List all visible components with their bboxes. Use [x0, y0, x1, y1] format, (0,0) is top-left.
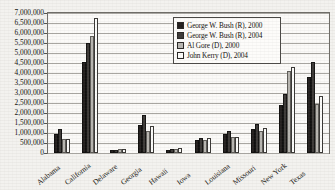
y-axis-tick-label: 6,000,000 — [0, 29, 44, 37]
y-axis-tickmark — [44, 63, 47, 64]
legend-item-label: George W. Bush (R), 2000 — [187, 21, 262, 30]
y-axis-tick-label: 6,500,000 — [0, 19, 44, 27]
bar-chart: 7,000,0006,500,0006,000,0005,500,0005,00… — [0, 0, 335, 190]
x-axis-category-label: Texas — [287, 169, 306, 187]
y-axis-tickmark — [44, 13, 47, 14]
y-axis-tick-label: 4,500,000 — [0, 59, 44, 67]
bar-group — [48, 13, 76, 153]
y-axis-tickmark — [44, 23, 47, 24]
bar — [178, 148, 182, 153]
y-axis-tickmark — [44, 93, 47, 94]
y-axis-tick-label: 5,500,000 — [0, 39, 44, 47]
y-axis-tickmark — [44, 83, 47, 84]
y-axis-tick-label: 2,000,000 — [0, 109, 44, 117]
x-axis-category-label: New York — [259, 161, 289, 187]
bar — [263, 128, 267, 153]
x-axis-category-label: California — [63, 161, 92, 187]
legend-item: John Kerry (D), 2004 — [177, 50, 277, 60]
y-axis-tick-label: 1,500,000 — [0, 119, 44, 127]
legend-swatch-icon — [177, 32, 184, 39]
x-axis-category-label: Alabama — [34, 163, 61, 187]
x-axis-category-label: Missouri — [231, 163, 258, 186]
legend-item: Al Gore (D), 2000 — [177, 40, 277, 50]
legend-item: George W. Bush (R), 2004 — [177, 30, 277, 40]
bar-group — [76, 13, 104, 153]
legend-item: George W. Bush (R), 2000 — [177, 20, 277, 30]
x-axis-category-label: Delaware — [91, 162, 119, 187]
bar — [319, 96, 323, 153]
bar — [291, 67, 295, 153]
legend-item-label: John Kerry (D), 2004 — [187, 51, 248, 60]
legend-swatch-icon — [177, 22, 184, 29]
bar — [94, 18, 98, 153]
y-axis-tick-label: 3,500,000 — [0, 79, 44, 87]
chart-legend: George W. Bush (R), 2000 George W. Bush … — [173, 17, 281, 64]
y-axis-tickmark — [44, 143, 47, 144]
y-axis-tickmark — [44, 113, 47, 114]
legend-swatch-icon — [177, 42, 184, 49]
bar — [235, 137, 239, 153]
x-axis-category-label: Georgia — [119, 165, 143, 187]
bar — [66, 139, 70, 153]
x-axis-category-label: Iowa — [175, 171, 192, 187]
bar-group — [104, 13, 132, 153]
y-axis-tick-label: 2,500,000 — [0, 99, 44, 107]
bar-group — [301, 13, 329, 153]
legend-swatch-icon — [177, 52, 184, 59]
y-axis-tickmark — [44, 33, 47, 34]
y-axis-tick-label: 3,000,000 — [0, 89, 44, 97]
x-axis-category-labels: AlabamaCaliforniaDelawareGeorgiaHawaiiIo… — [47, 154, 330, 190]
y-axis-tick-label: 500,000 — [0, 139, 44, 147]
y-axis-tick-label: 0 — [0, 149, 44, 157]
x-axis-category-label: Hawaii — [147, 166, 170, 186]
y-axis-tickmark — [44, 123, 47, 124]
y-axis-tickmark — [44, 133, 47, 134]
y-axis-tick-label: 7,000,000 — [0, 9, 44, 17]
y-axis-tick-label: 1,000,000 — [0, 129, 44, 137]
y-axis-tickmark — [44, 43, 47, 44]
y-axis-tickmark — [44, 53, 47, 54]
bar — [122, 149, 126, 153]
y-axis-tick-label: 4,000,000 — [0, 69, 44, 77]
y-axis-tickmarks — [47, 12, 51, 154]
y-axis-tickmark — [44, 73, 47, 74]
y-axis-tick-labels: 7,000,0006,500,0006,000,0005,500,0005,00… — [0, 12, 47, 154]
x-axis-category-label: Louisiana — [203, 162, 232, 187]
legend-item-label: George W. Bush (R), 2004 — [187, 31, 262, 40]
bar — [207, 138, 211, 153]
y-axis-tick-label: 5,000,000 — [0, 49, 44, 57]
y-axis-tickmark — [44, 103, 47, 104]
bar — [150, 126, 154, 153]
bar-group — [132, 13, 160, 153]
legend-item-label: Al Gore (D), 2000 — [187, 41, 239, 50]
